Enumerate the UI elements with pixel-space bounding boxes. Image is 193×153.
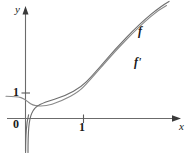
- y-axis-label: y: [15, 4, 20, 15]
- curve-f: [6, 6, 167, 106]
- x-axis: [7, 115, 181, 124]
- y-axis-tick-label-1: 1: [13, 86, 19, 98]
- figure-container: y x 0 1 1 f f': [0, 0, 193, 153]
- origin-label: 0: [13, 118, 19, 130]
- curve-label-f: f: [138, 25, 142, 37]
- curve-f-prime: [28, 1, 169, 152]
- x-axis-label: x: [179, 121, 184, 132]
- x-axis-tick-label-1: 1: [79, 121, 85, 133]
- curve-label-f-prime: f': [134, 56, 141, 68]
- plot-canvas: [0, 0, 193, 153]
- y-axis-arrowhead: [23, 6, 29, 15]
